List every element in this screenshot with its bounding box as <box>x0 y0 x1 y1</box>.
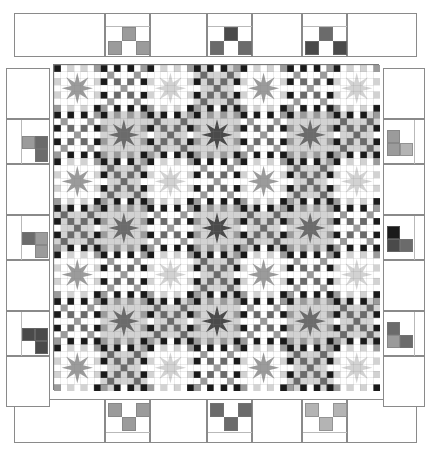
motif-square-mid <box>400 335 413 348</box>
border-tile-bottom-3 <box>207 399 252 443</box>
motif-square-mid <box>22 328 35 341</box>
motif-square-mid <box>22 232 35 245</box>
border-tile-top-2 <box>150 13 207 57</box>
quilt-body <box>53 64 379 390</box>
motif-square-mid <box>400 143 413 156</box>
motif-square-right <box>238 41 252 55</box>
motif-divider <box>106 26 151 27</box>
motif-square-bottom <box>122 417 136 431</box>
border-tile-left-3 <box>6 215 50 260</box>
motif-square-top <box>35 328 48 341</box>
motif-square-left <box>210 41 224 55</box>
border-tile-bottom-2 <box>150 399 207 443</box>
motif-square-mid <box>400 239 413 252</box>
motif-square-top <box>224 27 238 41</box>
motif-square-top <box>319 27 333 41</box>
border-tile-left-5 <box>6 311 50 356</box>
motif-square-top <box>387 226 400 239</box>
border-tile-left-2 <box>6 164 50 215</box>
motif-square-right <box>136 403 150 417</box>
motif-divider <box>414 120 415 165</box>
motif-square-right <box>333 41 347 55</box>
motif-square-top <box>35 232 48 245</box>
border-tile-right-1 <box>383 119 425 164</box>
motif-square-right <box>136 41 150 55</box>
motif-square-left <box>305 41 319 55</box>
border-tile-bottom-5 <box>302 399 347 443</box>
motif-square-bottom <box>319 417 333 431</box>
motif-square-top <box>387 322 400 335</box>
quilt-pattern-canvas <box>54 65 380 391</box>
quilt-diagram-page <box>0 0 431 450</box>
motif-square-right <box>238 403 252 417</box>
motif-divider <box>106 432 151 433</box>
motif-square-bottom <box>387 335 400 348</box>
border-tile-right-5 <box>383 311 425 356</box>
motif-square-left <box>305 403 319 417</box>
motif-square-bottom <box>35 149 48 162</box>
border-tile-left-0 <box>6 68 50 119</box>
border-tile-right-2 <box>383 164 425 215</box>
motif-divider <box>208 432 253 433</box>
border-tile-right-3 <box>383 215 425 260</box>
motif-divider <box>21 312 22 357</box>
border-tile-right-4 <box>383 260 425 311</box>
motif-square-top <box>122 27 136 41</box>
motif-divider <box>21 216 22 261</box>
motif-square-bottom <box>35 341 48 354</box>
motif-square-right <box>333 403 347 417</box>
border-tile-top-0 <box>14 13 105 57</box>
border-tile-left-4 <box>6 260 50 311</box>
border-tile-right-6 <box>383 356 425 407</box>
motif-square-left <box>108 403 122 417</box>
border-tile-bottom-4 <box>252 399 302 443</box>
border-tile-bottom-1 <box>105 399 150 443</box>
motif-square-mid <box>22 136 35 149</box>
motif-divider <box>303 26 348 27</box>
border-tile-left-1 <box>6 119 50 164</box>
border-tile-top-1 <box>105 13 150 57</box>
motif-square-top <box>35 136 48 149</box>
motif-divider <box>414 312 415 357</box>
border-tile-top-4 <box>252 13 302 57</box>
border-tile-top-3 <box>207 13 252 57</box>
motif-divider <box>21 120 22 165</box>
motif-divider <box>303 432 348 433</box>
motif-divider <box>208 26 253 27</box>
motif-square-bottom <box>35 245 48 258</box>
motif-square-bottom <box>387 143 400 156</box>
motif-divider <box>414 216 415 261</box>
border-tile-top-6 <box>347 13 417 57</box>
motif-square-left <box>210 403 224 417</box>
border-tile-left-6 <box>6 356 50 407</box>
border-tile-top-5 <box>302 13 347 57</box>
motif-square-left <box>108 41 122 55</box>
motif-square-top <box>387 130 400 143</box>
border-tile-right-0 <box>383 68 425 119</box>
motif-square-bottom <box>224 417 238 431</box>
motif-square-bottom <box>387 239 400 252</box>
